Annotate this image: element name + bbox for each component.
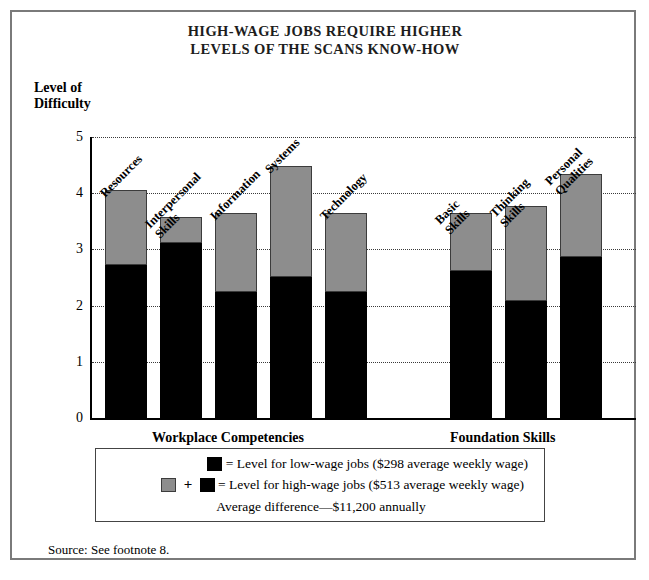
bar-segment-low-wage (160, 243, 202, 418)
y-tick-0: 0 (63, 413, 83, 423)
legend-swatch-low-wage (207, 457, 222, 471)
chart-title-line2: LEVELS OF THE SCANS KNOW-HOW (12, 40, 638, 58)
plot-area: 543210 ResourcesInterpersonalSkillsInfor… (90, 127, 636, 427)
y-axis-line (90, 137, 92, 418)
x-axis-line (90, 418, 636, 420)
y-axis-label-line2: Difficulty (34, 96, 91, 112)
y-axis-label: Level of Difficulty (34, 80, 91, 112)
bar-information (215, 213, 257, 418)
bar-thinking-skills (505, 206, 547, 418)
bar-segment-high-wage (270, 166, 312, 277)
legend-box: = Level for low-wage jobs ($298 average … (95, 448, 545, 522)
bar-personal-qualities (560, 174, 602, 418)
legend-label-low-wage: = Level for low-wage jobs ($298 average … (226, 456, 528, 471)
bar-segment-low-wage (215, 292, 257, 418)
bar-interpersonal-skills (160, 217, 202, 418)
chart-title: HIGH-WAGE JOBS REQUIRE HIGHER LEVELS OF … (12, 22, 638, 58)
group-caption-foundation-skills: Foundation Skills (450, 430, 555, 446)
bar-segment-low-wage (325, 292, 367, 418)
bar-segment-high-wage (325, 213, 367, 292)
chart-title-line1: HIGH-WAGE JOBS REQUIRE HIGHER (12, 22, 638, 40)
bar-resources (105, 190, 147, 418)
bar-segment-high-wage (215, 213, 257, 292)
figure-frame: HIGH-WAGE JOBS REQUIRE HIGHER LEVELS OF … (10, 10, 636, 560)
source-note: Source: See footnote 8. (48, 542, 169, 558)
y-tick-4: 4 (63, 188, 83, 198)
legend-note-average-difference: Average difference—$11,200 annually (96, 499, 546, 519)
bar-segment-high-wage (105, 190, 147, 265)
bar-basic-skills (450, 213, 492, 418)
y-tick-2: 2 (63, 301, 83, 311)
y-tick-5: 5 (63, 132, 83, 142)
y-tick-1: 1 (63, 357, 83, 367)
bar-systems (270, 166, 312, 418)
legend-row-high-wage: + = Level for high-wage jobs ($513 avera… (96, 476, 546, 496)
legend-label-high-wage: = Level for high-wage jobs ($513 average… (218, 477, 524, 492)
y-axis-label-line1: Level of (34, 80, 91, 96)
bar-segment-low-wage (505, 301, 547, 418)
bar-segment-low-wage (270, 277, 312, 418)
bar-segment-low-wage (560, 257, 602, 418)
gridline-5 (92, 137, 636, 138)
legend-swatch-high-wage (161, 478, 176, 492)
y-tick-3: 3 (63, 244, 83, 254)
legend-row-low-wage: = Level for low-wage jobs ($298 average … (96, 456, 546, 476)
bar-segment-low-wage (450, 271, 492, 418)
legend-swatch-low-wage-secondary (200, 478, 215, 492)
bar-segment-low-wage (105, 265, 147, 418)
group-caption-workplace-competencies: Workplace Competencies (152, 430, 304, 446)
legend-plus-sign: + (180, 476, 197, 493)
bar-technology (325, 213, 367, 418)
